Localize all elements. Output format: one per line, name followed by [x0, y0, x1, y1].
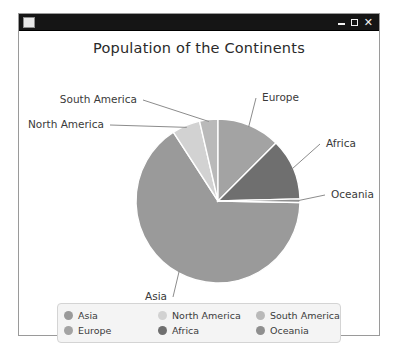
legend-item[interactable]: Europe	[64, 325, 158, 336]
window-titlebar[interactable]: ✕	[19, 14, 379, 31]
pie-slice-label: Asia	[145, 290, 167, 302]
pie-slice-label: North America	[28, 118, 104, 130]
application-window: ✕ Population of the Continents South Ame…	[18, 13, 380, 336]
legend-item-label: Asia	[78, 310, 98, 321]
chart-legend: AsiaNorth AmericaSouth AmericaEuropeAfri…	[57, 303, 341, 343]
pie-leader-line	[298, 195, 325, 201]
legend-color-swatch	[256, 311, 265, 320]
pie-leader-line	[249, 98, 256, 127]
legend-grid: AsiaNorth AmericaSouth AmericaEuropeAfri…	[64, 308, 334, 338]
legend-item[interactable]: Africa	[158, 325, 256, 336]
legend-item-label: North America	[172, 310, 241, 321]
legend-item[interactable]: Asia	[64, 310, 158, 321]
close-icon[interactable]: ✕	[364, 18, 373, 27]
pie-slice-label: Africa	[326, 137, 356, 149]
legend-color-swatch	[64, 311, 73, 320]
app-icon	[23, 17, 35, 28]
pie-slice-label: South America	[60, 93, 137, 105]
legend-item[interactable]: South America	[256, 310, 346, 321]
legend-item[interactable]: North America	[158, 310, 256, 321]
screenshot-root: ✕ Population of the Continents South Ame…	[0, 0, 397, 356]
maximize-icon[interactable]	[351, 19, 358, 26]
pie-leader-line	[173, 271, 179, 297]
legend-color-swatch	[64, 326, 73, 335]
legend-item-label: Oceania	[270, 325, 309, 336]
window-controls: ✕	[338, 18, 373, 27]
minimize-icon[interactable]	[338, 23, 345, 25]
legend-color-swatch	[256, 326, 265, 335]
legend-item-label: Europe	[78, 325, 111, 336]
pie-leader-line	[292, 144, 320, 169]
legend-item[interactable]: Oceania	[256, 325, 346, 336]
pie-chart: South AmericaNorth AmericaEuropeAfricaOc…	[19, 31, 379, 335]
legend-item-label: Africa	[172, 325, 199, 336]
window-client-area: Population of the Continents South Ameri…	[19, 31, 379, 335]
pie-leader-line	[110, 125, 187, 127]
legend-item-label: South America	[270, 310, 340, 321]
pie-slice-label: Europe	[262, 91, 299, 103]
pie-leader-line	[143, 100, 209, 122]
legend-color-swatch	[158, 311, 167, 320]
legend-color-swatch	[158, 326, 167, 335]
pie-slices	[136, 119, 300, 283]
pie-slice-label: Oceania	[331, 188, 374, 200]
